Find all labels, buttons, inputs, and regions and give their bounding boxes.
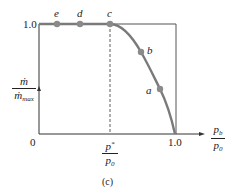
y-axis-arrow-icon [37, 86, 41, 91]
point-label-d: d [77, 8, 83, 19]
origin-label: 0 [30, 137, 36, 148]
point-label-a: a [146, 85, 152, 96]
figure-caption: (c) [102, 177, 113, 187]
point-e [54, 21, 60, 27]
point-d [77, 21, 83, 27]
point-b [138, 49, 144, 55]
x-label-denominator: p0 [214, 140, 223, 153]
x-axis-label: pb p0 [211, 124, 225, 153]
x-label-num-sub: b [219, 129, 223, 137]
point-label-b: b [147, 45, 153, 56]
point-a [157, 86, 163, 92]
point-label-e: e [54, 8, 59, 19]
crit-label-numerator: p* [106, 141, 115, 152]
y-tick-top: 1.0 [23, 19, 37, 30]
x-tick-right: 1.0 [168, 137, 182, 148]
y-axis-label: ṁ ṁmax [12, 76, 36, 103]
point-c [107, 21, 113, 27]
y-label-denominator: ṁmax [14, 90, 34, 103]
x-label-den-sub: 0 [219, 145, 223, 153]
y-label-den-main: ṁ [14, 89, 22, 101]
y-label-den-sub: max [22, 95, 34, 103]
point-label-c: c [107, 8, 112, 19]
y-label-numerator: ṁ [20, 76, 28, 87]
x-axis-arrow-icon [199, 132, 205, 136]
x-label-numerator: pb [214, 124, 223, 137]
critical-pressure-label: p* p0 [102, 141, 118, 168]
crit-label-denominator: p0 [106, 155, 115, 168]
mass-flow-curve [39, 24, 175, 134]
crit-den-sub: 0 [111, 160, 115, 168]
crit-num-sup: * [111, 140, 115, 148]
